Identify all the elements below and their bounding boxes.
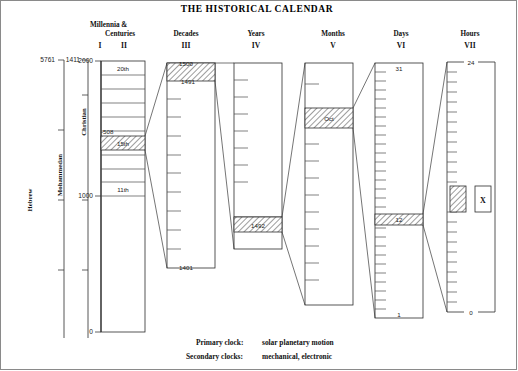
calendar-diagram: THE HISTORICAL CALENDAR Millennia & Cent… [0,0,518,371]
column-header-millennia-line1: Millennia & [90,21,127,29]
month-highlight-label: Oct [324,115,334,122]
secondary-clocks-value: mechanical, electronic [262,352,333,361]
column-header-months: Months [321,30,345,38]
column-header-millennia-line2: Centuries [105,30,135,38]
day-bottom-label: 1 [397,311,401,318]
hebrew-top-value: 5761 [40,56,55,63]
connector-v-to-vi [353,63,375,318]
column-vii-hours: X 24 0 [447,59,495,316]
connector-iv-to-v [282,63,305,305]
mohammedan-axis-label: Mohammedan [56,154,63,197]
connector-iii-to-iv [215,63,234,249]
page-title: THE HISTORICAL CALENDAR [181,4,333,14]
christian-top-label: 2000 [78,57,93,64]
hour-marker-label: X [480,196,486,205]
connector-ii-to-iii [145,63,167,268]
hebrew-axis-label: Hebrew [26,188,33,211]
column-iv-years: 1492 [234,63,282,249]
secondary-clocks-label: Secondary clocks: [186,352,243,361]
christian-mid-label: 1000 [78,192,93,199]
column-ii-centuries: 15th 20th 11th -508 [101,61,145,332]
connector-vi-to-vii [423,62,447,312]
column-roman-i: I [99,41,102,50]
century-low-label: 11th [117,186,129,193]
year-highlight-label: 1492 [251,222,265,229]
day-highlight-label: 12 [396,216,403,223]
decade-bottom-label: 1401 [179,264,193,271]
christian-bottom-label: 0 [89,328,93,335]
hour-highlight-band [450,186,466,212]
christian-axis-label: Christian [80,108,87,136]
column-i-christian: 2000 1000 0 Christian [78,57,101,335]
column-header-decades: Decades [173,30,198,38]
column-iii-decades: 1500 1491 1401 [167,60,215,271]
days-tick-group [375,72,386,309]
century-edge-label: -508 [101,128,114,135]
column-v-months: Oct [305,63,353,305]
hour-bottom-label: 0 [469,309,473,316]
century-top-label: 20th [117,65,130,72]
column-header-hours: Hours [460,30,479,38]
column-header-years: Years [247,30,264,38]
column-header-days: Days [393,30,408,38]
historical-calendar-figure: THE HISTORICAL CALENDAR Millennia & Cent… [0,0,518,371]
column-roman-vi: VI [397,41,405,50]
column-roman-v: V [330,41,336,50]
column-roman-vii: VII [464,41,475,50]
hour-top-label: 24 [468,59,475,66]
column-vi-days: 12 31 1 [375,63,423,318]
column-roman-ii: II [121,41,127,50]
primary-clock-value: solar planetary motion [262,338,334,347]
decade-second-label: 1491 [181,78,195,85]
column-roman-iv: IV [252,41,261,50]
day-top-label: 31 [396,65,403,72]
decade-top-label: 1500 [179,60,193,67]
column-roman-iii: III [182,41,191,50]
century-highlight-label: 15th [117,140,130,147]
primary-clock-label: Primary clock: [196,338,243,347]
